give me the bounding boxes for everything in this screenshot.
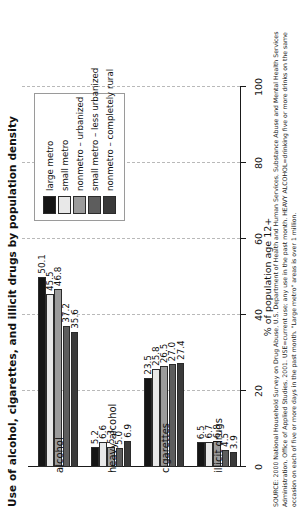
bar <box>197 442 205 467</box>
legend-swatch-icon <box>73 196 86 214</box>
legend-item: nonmetro – urbanized <box>73 100 86 214</box>
legend-swatch-icon <box>88 196 101 214</box>
legend-item-label: nonmetro – urbanized <box>75 97 85 191</box>
legend-item: large metro <box>43 100 56 214</box>
bar-row: 25.8 <box>152 87 160 467</box>
source-note: SOURCE: 2000 National Household Survey o… <box>272 9 299 507</box>
bar-group: 23.525.826.527.027.4 <box>134 87 187 467</box>
category-axis-line <box>240 87 241 467</box>
chart-title: Use of alcohol, cigarettes, and illicit … <box>6 116 18 507</box>
bar <box>38 277 46 467</box>
bar-value-label: 3.9 <box>229 435 239 451</box>
legend-swatch-icon <box>103 196 116 214</box>
legend-item-label: small metro – less urbanized <box>90 68 100 191</box>
bar-row: 6.7 <box>205 87 213 467</box>
legend-item: nonmetro – completely rural <box>103 100 116 214</box>
bar-row: 6.8 <box>213 87 221 467</box>
bar-row: 6.5 <box>197 87 205 467</box>
bar <box>91 447 99 467</box>
legend-item-label: small metro <box>60 140 70 191</box>
bar-row: 23.5 <box>144 87 152 467</box>
chart-figure: Use of alcohol, cigarettes, and illicit … <box>0 0 301 511</box>
bar-row: 4.5 <box>222 87 230 467</box>
legend-item: small metro <box>58 100 71 214</box>
bar <box>144 378 152 467</box>
legend-swatch-icon <box>58 196 71 214</box>
legend-item: small metro – less urbanized <box>88 100 101 214</box>
legend-swatch-icon <box>43 196 56 214</box>
bar-row: 27.0 <box>169 87 177 467</box>
bar <box>71 332 79 467</box>
legend: large metrosmall metrononmetro – urbaniz… <box>34 93 125 221</box>
bar <box>124 441 132 467</box>
bar-row: 27.4 <box>177 87 185 467</box>
bar-group: 6.56.76.84.53.9 <box>187 87 240 467</box>
bar-value-label: 35.6 <box>70 309 80 331</box>
legend-item-label: large metro <box>45 141 55 191</box>
bar-row: 26.5 <box>160 87 168 467</box>
bar-value-label: 27.4 <box>176 340 186 362</box>
legend-item-label: nonmetro – completely rural <box>105 69 115 191</box>
bar <box>230 452 238 467</box>
bar-value-label: 6.9 <box>123 424 133 440</box>
bar-row: 3.9 <box>230 87 238 467</box>
bar <box>177 363 185 467</box>
